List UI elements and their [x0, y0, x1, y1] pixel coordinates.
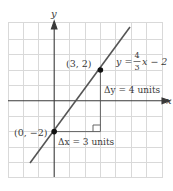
point-label-3-2: (3, 2)	[66, 58, 92, 69]
delta-x-label: Δx = 3 units	[58, 137, 115, 147]
equation-lhs: y =	[115, 56, 132, 67]
slope-graph: x y (0, −2) (3, 2) y = 4 3 x − 2 Δy = 4 …	[0, 0, 173, 191]
y-axis-label: y	[50, 8, 57, 19]
equation-tail: x − 2	[142, 56, 167, 67]
right-angle-marker-icon	[93, 125, 100, 132]
equation-label: y = 4 3 x − 2	[115, 51, 167, 72]
graph-canvas: x y (0, −2) (3, 2) y = 4 3 x − 2 Δy = 4 …	[0, 0, 173, 191]
x-axis-label: x	[166, 95, 172, 106]
point-3-2	[98, 67, 104, 73]
equation-numerator: 4	[135, 51, 140, 60]
point-0-neg2	[51, 129, 57, 135]
axes	[8, 21, 170, 177]
grid	[8, 22, 162, 177]
point-label-0-neg2: (0, −2)	[14, 127, 48, 138]
equation-denominator: 3	[135, 63, 140, 72]
delta-y-label: Δy = 4 units	[104, 85, 161, 95]
